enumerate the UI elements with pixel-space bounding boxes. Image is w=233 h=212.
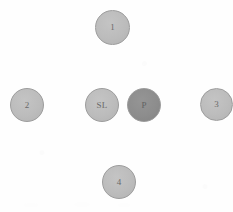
diagram-node-p[interactable]: P [127, 88, 161, 122]
scan-artifact-c [118, 203, 130, 207]
diagram-node-3-label: 3 [214, 100, 219, 109]
diagram-node-p-label: P [141, 101, 146, 110]
scan-artifact-b [74, 202, 90, 207]
diagram-node-sl[interactable]: SL [85, 88, 119, 122]
diagram-node-2[interactable]: 2 [10, 88, 44, 122]
diagram-node-1-label: 1 [110, 23, 115, 32]
diagram-node-sl-label: SL [97, 101, 108, 110]
diagram-canvas: 1 2 SL P 3 4 [0, 0, 233, 212]
diagram-node-3[interactable]: 3 [200, 88, 233, 121]
diagram-node-2-label: 2 [25, 101, 30, 110]
diagram-node-4-label: 4 [117, 178, 122, 187]
scan-artifact-a [24, 203, 38, 207]
diagram-node-1[interactable]: 1 [95, 10, 130, 45]
diagram-node-4[interactable]: 4 [102, 165, 136, 199]
